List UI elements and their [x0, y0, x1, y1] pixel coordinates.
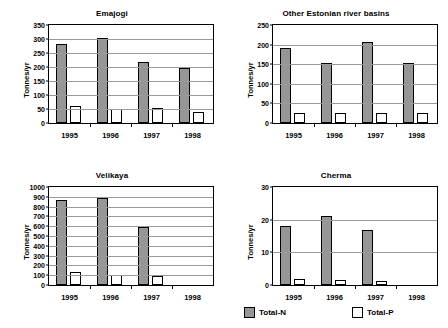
- x-tick-mark: [90, 285, 91, 289]
- y-tick-mark: [46, 236, 49, 237]
- y-tick-label: 300: [33, 252, 45, 259]
- bar-group: [273, 25, 314, 123]
- x-tick-label: 1996: [102, 131, 119, 140]
- y-tick-mark: [46, 81, 49, 82]
- gridline: [49, 67, 213, 68]
- legend-entry-total-n: Total-N: [244, 307, 286, 318]
- y-tick-label: 100: [33, 92, 45, 99]
- y-tick-label: 200: [33, 262, 45, 269]
- y-tick-label: 600: [33, 223, 45, 230]
- y-tick-mark: [270, 25, 273, 26]
- plot-area: 0501001502002503003501995199619971998: [48, 24, 214, 124]
- x-tick-mark: [355, 285, 356, 289]
- y-tick-label: 800: [33, 203, 45, 210]
- y-tick-mark: [46, 109, 49, 110]
- y-tick-label: 100: [33, 272, 45, 279]
- bar-total-n: [97, 198, 108, 285]
- bar-total-n: [56, 200, 67, 285]
- total-n-swatch-icon: [244, 307, 255, 318]
- y-tick-label: 0: [265, 282, 269, 289]
- gridline: [49, 109, 213, 110]
- x-tick-label: 1996: [102, 293, 119, 302]
- y-tick-label: 0: [41, 120, 45, 127]
- plot-area: 0100200300400500600700800900100019951996…: [48, 186, 214, 286]
- x-tick-mark: [314, 123, 315, 127]
- y-tick-mark: [46, 216, 49, 217]
- x-tick-mark: [396, 123, 397, 127]
- y-tick-mark: [46, 123, 49, 124]
- x-tick-label: 1997: [367, 131, 384, 140]
- x-tick-label: 1998: [184, 131, 201, 140]
- y-tick-mark: [270, 252, 273, 253]
- bar-total-n: [362, 42, 373, 123]
- x-tick-label: 1997: [143, 293, 160, 302]
- y-tick-mark: [270, 123, 273, 124]
- y-tick-label: 30: [261, 184, 269, 191]
- y-tick-mark: [46, 95, 49, 96]
- y-tick-label: 700: [33, 213, 45, 220]
- gridline: [273, 103, 437, 104]
- x-tick-label: 1997: [143, 131, 160, 140]
- bar-total-n: [362, 230, 373, 285]
- y-tick-label: 100: [257, 80, 269, 87]
- y-tick-mark: [270, 285, 273, 286]
- gridline: [49, 256, 213, 257]
- bar-total-n: [403, 63, 414, 123]
- y-tick-mark: [46, 265, 49, 266]
- y-axis-label: Tonnes/yr: [246, 62, 255, 97]
- chart-panel-cherma: Cherma Tonnes/yr 01020301995199619971998: [224, 164, 448, 319]
- x-tick-label: 1995: [61, 293, 78, 302]
- total-p-swatch-icon: [352, 307, 363, 318]
- y-tick-mark: [270, 219, 273, 220]
- bar-total-p: [335, 113, 346, 123]
- y-tick-label: 250: [33, 50, 45, 57]
- y-tick-label: 1000: [29, 184, 45, 191]
- y-tick-label: 50: [37, 106, 45, 113]
- chart-panel-other-estonian-river-basins: Other Estonian river basins Tonnes/yr 05…: [224, 2, 448, 157]
- bars-layer: [273, 25, 437, 123]
- x-tick-label: 1998: [408, 131, 425, 140]
- x-tick-label: 1998: [184, 293, 201, 302]
- gridline: [273, 220, 437, 221]
- x-tick-label: 1996: [326, 131, 343, 140]
- bar-total-p: [111, 275, 122, 285]
- gridline: [49, 226, 213, 227]
- gridline: [49, 95, 213, 96]
- gridline: [273, 45, 437, 46]
- legend-label: Total-N: [259, 308, 286, 317]
- bar-total-n: [56, 44, 67, 123]
- y-tick-label: 200: [33, 64, 45, 71]
- y-tick-mark: [46, 39, 49, 40]
- bar-total-n: [280, 226, 291, 285]
- x-tick-label: 1998: [408, 293, 425, 302]
- y-tick-mark: [46, 25, 49, 26]
- gridline: [49, 81, 213, 82]
- x-tick-mark: [314, 285, 315, 289]
- y-tick-mark: [46, 53, 49, 54]
- gridline: [49, 216, 213, 217]
- plot-area: 01020301995199619971998: [272, 186, 438, 286]
- y-tick-mark: [46, 226, 49, 227]
- bar-chart-figure: Emajogi Tonnes/yr 0501001502002503003501…: [0, 0, 448, 328]
- bar-total-p: [335, 280, 346, 285]
- x-tick-mark: [355, 123, 356, 127]
- gridline: [49, 39, 213, 40]
- y-tick-mark: [46, 67, 49, 68]
- y-tick-mark: [270, 187, 273, 188]
- y-tick-label: 20: [261, 216, 269, 223]
- y-tick-mark: [46, 285, 49, 286]
- y-tick-mark: [46, 206, 49, 207]
- y-tick-label: 0: [265, 120, 269, 127]
- bar-group: [314, 25, 355, 123]
- chart-panel-velikaya: Velikaya Tonnes/yr 010020030040050060070…: [0, 164, 224, 319]
- x-tick-label: 1995: [285, 293, 302, 302]
- y-tick-label: 150: [257, 61, 269, 68]
- gridline: [49, 197, 213, 198]
- gridline: [273, 84, 437, 85]
- x-tick-mark: [172, 123, 173, 127]
- chart-panel-emajogi: Emajogi Tonnes/yr 0501001502002503003501…: [0, 2, 224, 157]
- bar-total-p: [417, 113, 428, 123]
- gridline: [49, 53, 213, 54]
- y-tick-label: 250: [257, 22, 269, 29]
- y-tick-mark: [46, 196, 49, 197]
